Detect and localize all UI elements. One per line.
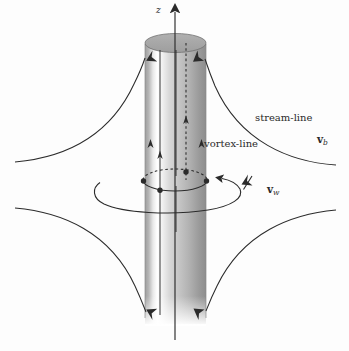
vortex-diagram: z stream-line vortex-line vb vw (0, 0, 349, 351)
vortex-ring-dot (157, 188, 162, 193)
velocity-w-label: vw (267, 184, 280, 196)
vortex-ring-dot (183, 169, 188, 174)
velocity-b-label: vb (317, 134, 328, 146)
velocity-b-subscript: b (323, 138, 328, 147)
stream-line-lower-left (15, 208, 157, 320)
vortex-line-label: vortex-line (204, 139, 258, 149)
diagram-canvas (0, 0, 349, 351)
axis-label-z: z (156, 6, 161, 15)
vortex-ring-dot (204, 178, 209, 183)
stream-line-lower-right (194, 210, 337, 320)
velocity-w-subscript: w (273, 188, 279, 197)
stream-line-label: stream-line (255, 113, 312, 123)
stream-line-upper-left (15, 51, 157, 163)
vortex-ring-dot (141, 178, 146, 183)
